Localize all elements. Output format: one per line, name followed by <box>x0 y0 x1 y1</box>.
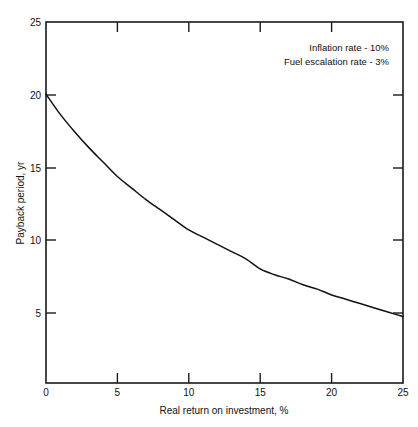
y-tick-label-5: 5 <box>35 308 41 319</box>
y-tick-label-15: 15 <box>30 163 42 174</box>
y-tick-label-25: 25 <box>30 17 42 28</box>
payback-period-chart: 25 20 15 10 5 0 5 10 15 20 25 Payback pe… <box>0 0 418 427</box>
y-axis-title: Payback period, yr <box>15 161 26 244</box>
x-axis-title: Real return on investment, % <box>160 405 289 416</box>
x-tick-label-20: 20 <box>326 387 338 398</box>
y-tick-label-20: 20 <box>30 90 42 101</box>
annotation-inflation-rate: Inflation rate - 10% <box>309 42 389 53</box>
y-tick-label-10: 10 <box>30 235 42 246</box>
x-tick-label-25: 25 <box>397 387 409 398</box>
x-tick-label-10: 10 <box>183 387 195 398</box>
x-tick-label-0: 0 <box>43 387 49 398</box>
x-tick-label-5: 5 <box>115 387 121 398</box>
x-tick-label-15: 15 <box>255 387 267 398</box>
annotation-fuel-escalation-rate: Fuel escalation rate - 3% <box>284 56 390 67</box>
